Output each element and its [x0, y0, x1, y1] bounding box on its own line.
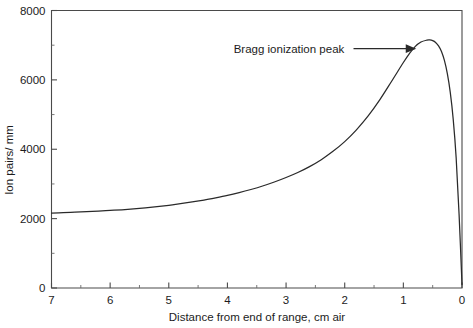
annotation-group: Bragg ionization peak [234, 43, 417, 55]
x-tick-label-6: 1 [400, 294, 406, 306]
x-axis-title: Distance from end of range, cm air [169, 311, 346, 323]
x-tick-label-0: 7 [48, 294, 54, 306]
y-tick-label-2: 4000 [20, 143, 46, 155]
x-tick-label-7: 0 [459, 294, 465, 306]
data-series-group [52, 40, 463, 285]
y-tick-label-0: 0 [39, 282, 45, 294]
data-curve-0 [52, 40, 463, 285]
chart-canvas: 76543210 02000400060008000 Bragg ionizat… [0, 0, 473, 328]
y-axis-tick-labels: 02000400060008000 [20, 5, 46, 295]
x-axis-tick-labels: 76543210 [48, 294, 465, 306]
y-axis-ticks [52, 11, 58, 289]
bragg-curve-figure: 76543210 02000400060008000 Bragg ionizat… [0, 0, 473, 328]
x-tick-label-1: 6 [107, 294, 113, 306]
x-axis-ticks [52, 283, 463, 289]
x-tick-label-4: 3 [283, 294, 289, 306]
x-tick-label-2: 5 [166, 294, 172, 306]
x-tick-label-5: 2 [342, 294, 348, 306]
annotation-label-0: Bragg ionization peak [234, 43, 345, 55]
y-tick-label-4: 8000 [20, 5, 46, 17]
y-tick-label-1: 2000 [20, 213, 46, 225]
x-tick-label-3: 4 [224, 294, 231, 306]
y-tick-label-3: 6000 [20, 74, 46, 86]
y-axis-title: Ion pairs/ mm [3, 125, 15, 195]
